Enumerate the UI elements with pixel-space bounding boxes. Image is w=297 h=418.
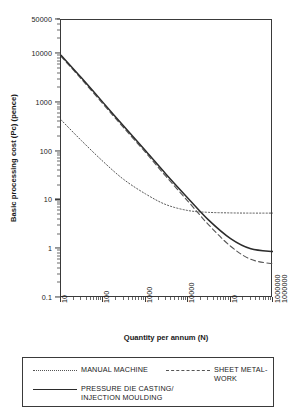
x-axis-minor-tick: [263, 297, 264, 300]
x-axis-minor-tick: [143, 297, 144, 300]
x-axis-minor-tick: [268, 297, 269, 300]
x-axis-minor-tick: [128, 297, 129, 300]
x-axis-title: Quantity per annum (N): [60, 333, 272, 342]
plot-curves: [61, 20, 273, 298]
chart-figure: Basic processing cost (Pc) (pence) 50000…: [0, 0, 297, 418]
x-axis-tick-label-text: 10: [230, 295, 239, 303]
x-axis-tick-label-text: 10: [60, 295, 69, 303]
x-axis-tick-label: 10: [55, 303, 65, 331]
x-axis-minor-tick: [228, 297, 229, 300]
series-line: [61, 120, 273, 213]
x-axis-minor-tick: [183, 297, 184, 300]
x-axis-minor-tick: [270, 297, 271, 300]
x-axis-tick-label: 10000: [182, 303, 192, 331]
x-axis-tick-label: 1000000: [275, 303, 285, 331]
x-axis-minor-tick: [242, 297, 243, 300]
x-axis-minor-tick: [86, 297, 87, 300]
legend-item-label: SHEET METAL-WORK: [210, 365, 273, 384]
x-axis-minor-tick: [174, 297, 175, 300]
legend-item-label: MANUAL MACHINE: [77, 365, 148, 374]
legend-item-label: PRESSURE DIE CASTING/ INJECTION MOULDING: [77, 384, 174, 403]
legend-item: SHEET METAL-WORK: [166, 365, 273, 384]
x-axis-minor-tick: [259, 297, 260, 300]
x-axis-tick-label-text: 1000000: [280, 274, 289, 303]
x-axis-minor-tick: [170, 297, 171, 300]
x-axis-minor-tick: [98, 297, 99, 300]
y-axis-tick-label: 1: [48, 244, 52, 253]
x-axis-minor-tick: [96, 297, 97, 300]
legend-item: MANUAL MACHINE: [33, 365, 148, 376]
x-axis-minor-tick: [207, 297, 208, 300]
x-axis-minor-tick: [220, 297, 221, 300]
legend: MANUAL MACHINESHEET METAL-WORKPRESSURE D…: [22, 357, 274, 407]
x-axis-minor-tick: [115, 297, 116, 300]
x-axis-minor-tick: [250, 297, 251, 300]
x-axis-minor-tick: [123, 297, 124, 300]
x-axis-minor-tick: [73, 297, 74, 300]
x-axis-tick-label-text: 100: [102, 291, 111, 303]
x-axis-minor-tick: [132, 297, 133, 300]
x-axis-minor-tick: [135, 297, 136, 300]
x-axis-minor-tick: [138, 297, 139, 300]
x-axis-tick-label-text: 10000: [187, 283, 196, 304]
legend-line-swatch: [166, 366, 210, 376]
series-line: [61, 55, 273, 251]
y-axis-tick-label: 10000: [32, 49, 53, 58]
x-axis-minor-tick: [158, 297, 159, 300]
legend-item: PRESSURE DIE CASTING/ INJECTION MOULDING: [33, 384, 174, 403]
x-axis-minor-tick: [80, 297, 81, 300]
x-axis-tick-label: 10: [225, 303, 235, 331]
x-axis-minor-tick: [181, 297, 182, 300]
x-axis-tick-label: 100: [97, 303, 107, 331]
plot-area: [60, 19, 272, 297]
x-axis-labels: 101001000100001010000001000000: [60, 303, 272, 331]
x-axis-minor-tick: [141, 297, 142, 300]
x-axis-minor-tick: [165, 297, 166, 300]
x-axis-minor-tick: [200, 297, 201, 300]
x-axis-minor-tick: [213, 297, 214, 300]
x-axis-minor-tick: [90, 297, 91, 300]
y-axis-tick-label: 10: [44, 195, 52, 204]
x-axis-tick-label-text: 1000: [145, 287, 154, 303]
x-axis-minor-tick: [217, 297, 218, 300]
legend-line-swatch: [33, 366, 77, 376]
y-axis-tick-label: 100: [40, 146, 52, 155]
y-axis-tick-label: 1000: [36, 97, 52, 106]
series-line: [61, 56, 273, 264]
x-axis-minor-tick: [255, 297, 256, 300]
y-axis: 500001000010001001010.1: [0, 19, 60, 297]
y-axis-tick-label: 0.1: [42, 293, 52, 302]
x-axis-tick-label: 1000: [140, 303, 150, 331]
y-axis-tick-label: 50000: [32, 15, 53, 24]
x-axis-minor-tick: [178, 297, 179, 300]
legend-line-swatch: [33, 385, 77, 395]
x-axis-minor-tick: [223, 297, 224, 300]
x-axis-minor-tick: [225, 297, 226, 300]
x-axis-minor-tick: [265, 297, 266, 300]
x-axis-minor-tick: [93, 297, 94, 300]
